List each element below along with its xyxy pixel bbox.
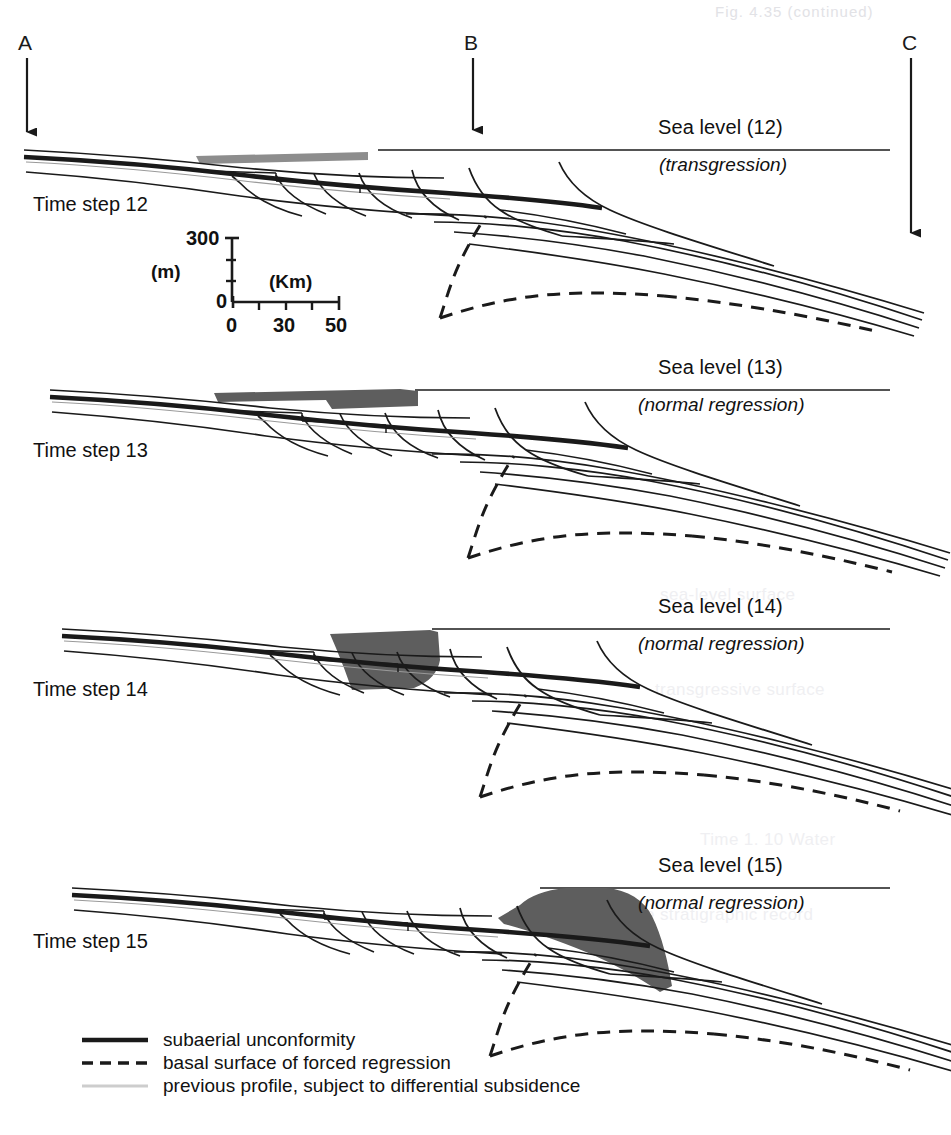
legend-label-basal-surface: basal surface of forced regression	[163, 1053, 451, 1072]
regime-label-15: (normal regression)	[638, 893, 805, 912]
legend-symbols	[82, 1040, 148, 1086]
regime-label-13: (normal regression)	[638, 395, 805, 414]
scale-y-unit: (m)	[151, 262, 181, 281]
regime-label-12: (transgression)	[659, 155, 787, 174]
basal-surface-dashed-13	[468, 533, 692, 558]
timestep-label-15: Time step 15	[33, 931, 148, 951]
sea-level-label-14: Sea level (14)	[658, 596, 783, 616]
stratigraphic-figure: Fig. 4.35 (continued) sea-level surface …	[0, 0, 951, 1135]
scale-y-max-label: 300	[186, 228, 219, 248]
sea-level-label-13: Sea level (13)	[658, 357, 783, 377]
transect-label-a: A	[18, 32, 32, 53]
scale-y-min-label: 0	[216, 291, 227, 311]
transect-label-b: B	[464, 32, 478, 53]
timestep-label-12: Time step 12	[33, 194, 148, 214]
sea-level-label-15: Sea level (15)	[658, 855, 783, 875]
shaded-wedge-12	[196, 152, 368, 164]
panel-12-geometry	[24, 150, 924, 336]
basal-surface-dashed-14	[480, 772, 704, 797]
scale-x-unit: (Km)	[269, 272, 312, 291]
timestep-label-13: Time step 13	[33, 440, 148, 460]
scale-x-tick-50: 50	[325, 315, 347, 335]
scale-x-tick-0: 0	[226, 315, 237, 335]
basal-surface-dashed-12	[440, 293, 664, 318]
legend-label-previous-profile: previous profile, subject to differentia…	[163, 1076, 580, 1095]
transect-arrows	[27, 58, 911, 233]
regime-label-14: (normal regression)	[638, 634, 805, 653]
legend-label-subaerial-unconformity: subaerial unconformity	[163, 1030, 355, 1049]
basal-surface-dashed-15	[490, 1031, 714, 1056]
cross-section-drawing	[0, 0, 951, 1135]
timestep-label-14: Time step 14	[33, 679, 148, 699]
panel-14-geometry	[62, 629, 951, 815]
panel-13-geometry	[50, 389, 950, 576]
sea-level-label-12: Sea level (12)	[658, 117, 783, 137]
transect-label-c: C	[902, 32, 917, 53]
scale-x-tick-30: 30	[273, 315, 295, 335]
